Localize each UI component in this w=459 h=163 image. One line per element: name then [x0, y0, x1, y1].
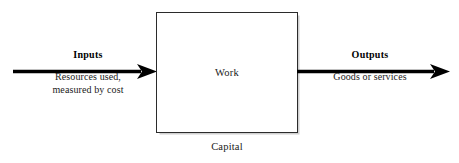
input-title: Inputs — [18, 49, 158, 60]
output-description-line1: Goods or services — [300, 71, 440, 84]
process-box: Work — [156, 12, 298, 133]
output-title: Outputs — [300, 49, 440, 60]
input-description-line1: Resources used, — [18, 71, 158, 84]
input-label-group: Inputs Resources used, measured by cost — [18, 49, 158, 96]
output-label-group: Outputs Goods or services — [300, 49, 440, 84]
process-flow-diagram: Inputs Resources used, measured by cost … — [0, 0, 459, 163]
process-box-label: Work — [157, 67, 297, 78]
input-description-line2: measured by cost — [18, 84, 158, 97]
capital-caption: Capital — [156, 141, 298, 152]
